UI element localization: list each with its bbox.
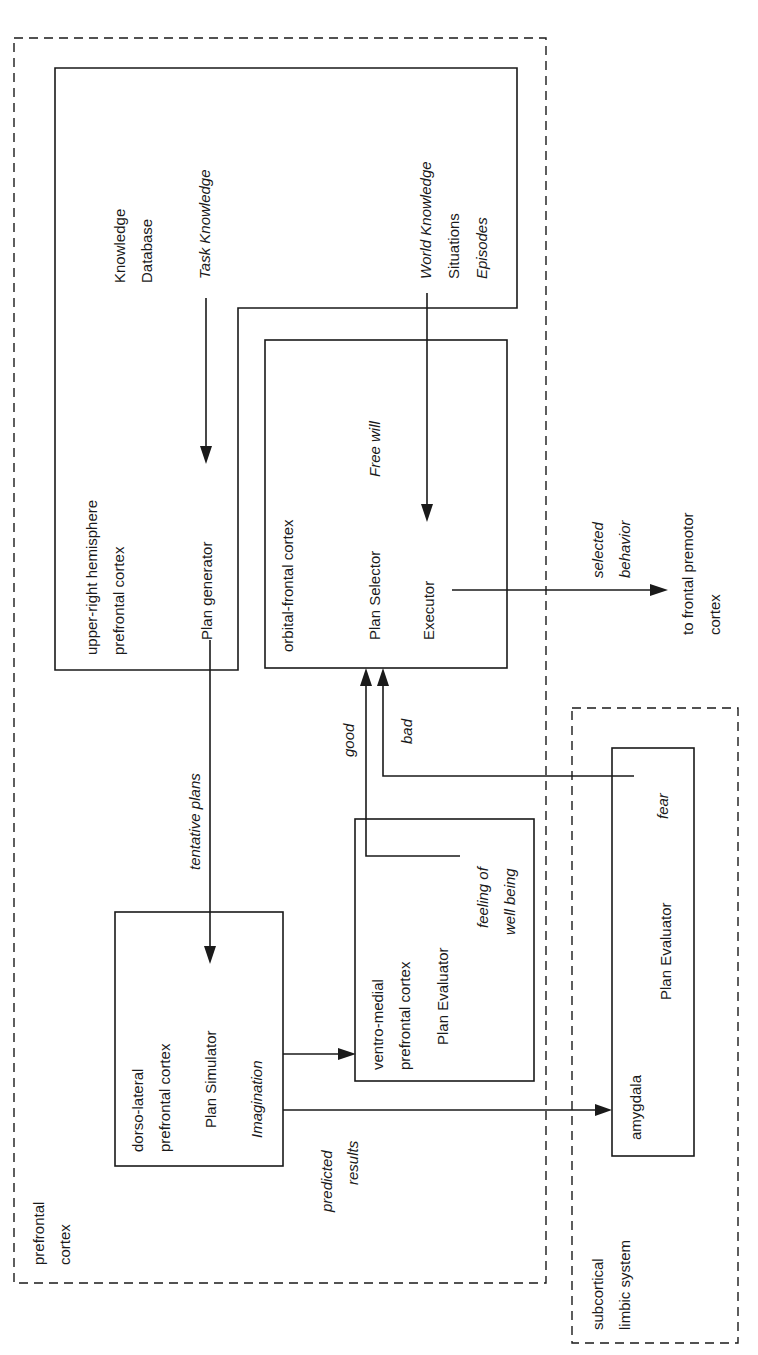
- behavior-label: behavior: [616, 519, 633, 578]
- predicted-results-arrow: [283, 1104, 612, 1116]
- dl-prefrontal-cortex-label: prefrontal cortex: [156, 1043, 173, 1152]
- executor-label: Executor: [420, 581, 437, 640]
- orbital-frontal-box: [265, 340, 507, 668]
- situations-label: Situations: [445, 213, 462, 279]
- prefrontal-region-label-line1: prefrontal: [30, 1202, 47, 1265]
- prefrontal-cortex-label: prefrontal cortex: [110, 546, 127, 655]
- tentative-plans-arrow: [204, 640, 216, 964]
- selected-behavior-arrow: [452, 584, 668, 596]
- episodes-label: Episodes: [473, 217, 490, 279]
- world-knowledge-label: World Knowledge: [417, 161, 434, 279]
- vm-prefrontal-cortex-label: prefrontal cortex: [396, 961, 413, 1070]
- knowledge-database-title-line1: Knowledge: [111, 209, 128, 283]
- predicted-label: predicted: [318, 1150, 335, 1213]
- plan-simulator-label: Plan Simulator: [202, 1030, 219, 1128]
- bad-feedback-arrow: [377, 668, 634, 776]
- good-label: good: [340, 723, 357, 757]
- diagram-canvas: Knowledge Database Task Knowledge World …: [0, 0, 758, 1355]
- prefrontal-region-label-line2: cortex: [56, 1224, 73, 1265]
- results-label: results: [344, 1140, 361, 1185]
- imagination-label: Imagination: [248, 1060, 265, 1138]
- selected-label: selected: [589, 521, 606, 578]
- free-will-label: Free will: [366, 420, 383, 477]
- dorso-lateral-label: dorso-lateral: [129, 1069, 146, 1152]
- vm-plan-evaluator-label: Plan Evaluator: [434, 947, 451, 1045]
- amygdala-label: amygdala: [627, 1074, 644, 1140]
- fear-label: fear: [654, 792, 671, 819]
- task-knowledge-arrow: [200, 298, 212, 464]
- plan-generator-label: Plan generator: [198, 542, 215, 640]
- knowledge-database-title-line2: Database: [138, 219, 155, 283]
- amygdala-box: [612, 748, 694, 1156]
- amygdala-plan-evaluator-label: Plan Evaluator: [657, 902, 674, 1000]
- limbic-region-label-line1: subcortical: [589, 1258, 606, 1330]
- world-knowledge-arrow: [421, 293, 433, 522]
- ventro-medial-label: ventro-medial: [369, 979, 386, 1070]
- feeling-of-label: feeling of: [474, 865, 491, 928]
- simulator-to-ventromedial-arrow: [283, 1048, 356, 1060]
- to-frontal-premotor-label: to frontal premotor: [679, 512, 696, 635]
- good-feedback-arrow: [360, 668, 460, 856]
- plan-selector-label: Plan Selector: [366, 551, 383, 640]
- well-being-label: well being: [501, 868, 518, 935]
- prefrontal-cortex-region: [14, 38, 546, 1283]
- orbital-frontal-cortex-label: orbital-frontal cortex: [279, 519, 296, 652]
- cortex-label: cortex: [706, 594, 723, 635]
- upper-right-hemisphere-label: upper-right hemisphere: [83, 500, 100, 655]
- tentative-plans-label: tentative plans: [186, 773, 203, 870]
- limbic-region-label-line2: limbic system: [616, 1240, 633, 1330]
- bad-label: bad: [398, 718, 415, 744]
- task-knowledge-label: Task Knowledge: [196, 169, 213, 279]
